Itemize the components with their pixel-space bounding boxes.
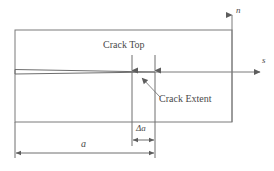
crack-upper-face [15,70,155,73]
axis-s-label: s [262,56,266,65]
axis-n-label: n [236,6,241,15]
crack-extension-diagram [0,0,274,171]
crack-lower-face [15,72,155,74]
dimension-a-label: a [81,139,86,149]
crack-extent-label: Crack Extent [159,94,211,104]
crack-top-label: Crack Top [103,40,145,50]
dimension-delta-a-label: Δa [136,124,146,133]
leader-crack-extent [142,78,160,97]
